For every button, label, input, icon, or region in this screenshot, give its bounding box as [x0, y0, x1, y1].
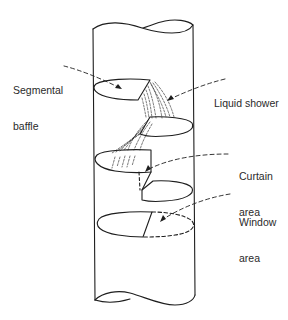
label-window-area: Window area	[239, 192, 276, 288]
label-segmental-baffle-line2: baffle	[13, 120, 63, 132]
baffle-3	[95, 150, 151, 190]
label-curtain-area-line1: Curtain	[239, 170, 273, 182]
baffle-4	[142, 181, 193, 202]
baffle-2	[140, 117, 193, 137]
label-window-area-line2: area	[239, 252, 276, 264]
baffle-column-diagram: Segmental baffle Liquid shower Curtain a…	[0, 0, 288, 320]
arrow-window-area-icon	[160, 215, 166, 222]
label-liquid-shower: Liquid shower	[214, 73, 279, 133]
label-segmental-baffle-line1: Segmental	[13, 84, 63, 96]
column-shell	[93, 20, 195, 305]
curtain-area	[139, 172, 140, 190]
label-liquid-shower-line1: Liquid shower	[214, 97, 279, 109]
arrow-liquid-shower-icon	[167, 95, 174, 101]
leader-lines	[64, 66, 230, 220]
label-segmental-baffle: Segmental baffle	[13, 60, 63, 156]
leader-curtain-area	[147, 154, 228, 170]
leader-segmental-baffle	[64, 66, 120, 88]
leader-window-area	[162, 194, 230, 220]
label-window-area-line1: Window	[239, 216, 276, 228]
liquid-shower	[112, 82, 174, 168]
arrow-curtain-area-icon	[145, 165, 151, 172]
baffle-1	[94, 79, 150, 100]
baffle-5	[97, 212, 152, 237]
